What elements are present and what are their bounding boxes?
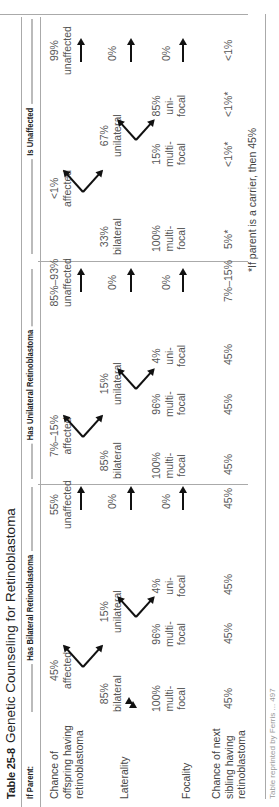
arrow-down-left-icon	[82, 416, 102, 438]
value-label: multi-	[163, 141, 176, 167]
uni-unaffected: 85%–93% unaffected	[48, 258, 73, 307]
value: 55%	[48, 480, 61, 529]
unaff-sibling-3: <1%*	[222, 92, 235, 117]
arrow-right-icon	[182, 270, 184, 292]
label-line: retinoblastoma	[73, 719, 86, 799]
value: 100%	[150, 452, 163, 479]
value: 45%	[48, 652, 61, 689]
arrow-right-icon	[80, 270, 82, 292]
arrow-down-left-icon	[82, 646, 102, 668]
value: 99%	[48, 26, 61, 75]
value: 96%	[150, 621, 163, 647]
footnote: *If parent is a carrier, then 45%	[246, 128, 258, 272]
unaff-uni-multifocal: 15% multi- focal	[150, 141, 188, 167]
arrow-right-icon	[130, 270, 132, 292]
value: 100%	[150, 225, 163, 252]
group-label-unaffected: Is Unaffected	[25, 104, 35, 159]
group-header-bilateral: Has Bilateral Retinoblastoma	[25, 487, 39, 712]
arrow-right-icon	[182, 40, 184, 62]
label-line: sibling having	[223, 719, 236, 799]
value-label: uni-	[163, 95, 176, 117]
value-label: uni-	[163, 575, 176, 597]
unaff-unaffected-laterality: 0%	[106, 46, 119, 61]
value: 85%–93%	[48, 258, 61, 307]
arrow-down-left-icon	[135, 120, 154, 141]
table-number: Table 25-8	[5, 748, 17, 799]
bil-unaffected-laterality: 0%	[106, 494, 119, 509]
value: 15%	[98, 590, 111, 633]
uni-sibling-2: 45%	[222, 394, 235, 415]
value-label: focal	[175, 391, 188, 417]
footer-rule	[265, 14, 266, 799]
value-label: multi-	[163, 391, 176, 417]
value-label: multi-	[163, 225, 176, 252]
value-label: multi-	[163, 452, 176, 479]
label-line: Chance of	[48, 719, 61, 799]
unaff-sibling-1: 5%*	[222, 230, 235, 249]
label-line: retinoblastoma	[235, 719, 248, 799]
label-line: offspring having	[61, 719, 74, 799]
unaff-uni-unifocal: 85% uni- focal	[150, 95, 188, 117]
arrow-right-icon	[80, 488, 82, 510]
value: 4%	[150, 345, 163, 367]
arrow-right-icon	[80, 40, 82, 62]
group-header-unilateral: Has Unilateral Retinoblastoma	[25, 269, 39, 479]
arrow-right-icon	[130, 40, 132, 62]
group-header-unaffected: Is Unaffected	[25, 19, 39, 254]
uni-uni-multifocal: 96% multi- focal	[150, 391, 188, 417]
uni-unaffected-focality: 0%	[160, 275, 173, 290]
value-label: uni-	[163, 345, 176, 367]
bil-sibling-4: 45%	[222, 488, 235, 509]
value: 15%	[98, 362, 111, 405]
group-label-bilateral: Has Bilateral Retinoblastoma	[25, 551, 35, 664]
uni-sibling-1: 45%	[222, 454, 235, 475]
bil-uni-multifocal: 96% multi- focal	[150, 621, 188, 647]
bil-sibling-1: 45%	[222, 688, 235, 709]
value-label: bilateral	[111, 442, 124, 479]
value: 7%–15%	[48, 415, 61, 457]
uni-sibling-3: 45%	[222, 344, 235, 365]
value-label: focal	[175, 95, 188, 117]
rotated-table-page: Table 25-8Genetic Counseling for Retinob…	[0, 0, 279, 807]
uni-sibling-4: 7%–15%	[222, 260, 235, 302]
value-label: focal	[175, 225, 188, 252]
value-label: unaffected	[61, 258, 74, 307]
value: 100%	[150, 685, 163, 712]
unaff-bil-focality: 100% multi- focal	[150, 225, 188, 252]
label-line: Chance of next	[210, 719, 223, 799]
bil-bilateral: 85% bilateral	[98, 675, 123, 712]
uni-bilateral: 85% bilateral	[98, 442, 123, 479]
value-label: bilateral	[111, 218, 124, 255]
source-note: Table reprinted by Ferris ... 497	[268, 688, 277, 799]
value-label: affected	[61, 652, 74, 689]
bil-unaffected: 55% unaffected	[48, 480, 73, 529]
value: 85%	[98, 442, 111, 479]
arrow-down-left-icon	[135, 369, 154, 390]
bil-affected: 45% affected	[48, 652, 73, 689]
value-label: focal	[175, 141, 188, 167]
value-label: focal	[175, 345, 188, 367]
value: 85%	[150, 95, 163, 117]
arrow-down-left-icon	[135, 597, 154, 618]
value-label: focal	[175, 685, 188, 712]
header-row: If Parent: Has Bilateral Retinoblastoma …	[23, 17, 39, 807]
unaff-unaffected-focality: 0%	[160, 46, 173, 61]
value: 15%	[150, 141, 163, 167]
uni-uni-unifocal: 4% uni- focal	[150, 345, 188, 367]
arrow-right-icon	[130, 488, 132, 510]
header-bottom-rule	[40, 17, 41, 807]
bil-bil-focality: 100% multi- focal	[150, 685, 188, 712]
value-label: bilateral	[111, 675, 124, 712]
row-label-focality: Focality	[180, 719, 193, 799]
value-label: focal	[175, 575, 188, 597]
unaff-unaffected: 99% unaffected	[48, 26, 73, 75]
row-label-offspring: Chance of offspring having retinoblastom…	[48, 719, 86, 799]
arrow-right-icon	[182, 488, 184, 510]
value-label: focal	[175, 452, 188, 479]
value: 85%	[98, 675, 111, 712]
uni-bil-focality: 100% multi- focal	[150, 452, 188, 479]
value-label: unaffected	[61, 26, 74, 75]
arrow-down-left-icon	[82, 171, 102, 193]
value: <1%	[48, 170, 61, 207]
group-label-unilateral: Has Unilateral Retinoblastoma	[25, 326, 35, 443]
